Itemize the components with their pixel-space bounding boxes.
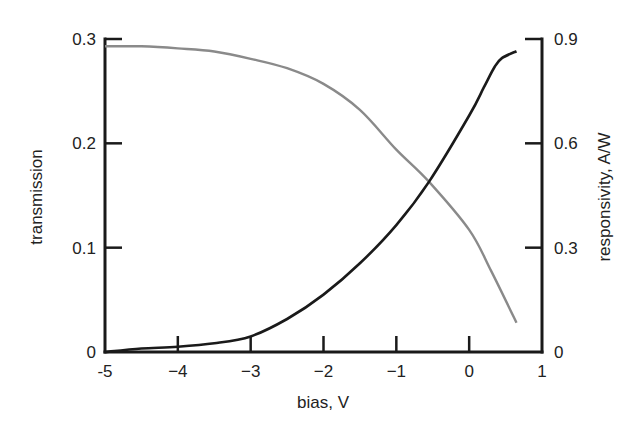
y-axis-title: transmission — [27, 149, 46, 244]
x-tick-label: 0 — [464, 362, 473, 381]
y2-tick-label: 0.3 — [554, 239, 578, 258]
x-tick-label: −4 — [168, 362, 187, 381]
y2-axis-title: responsivity, A/W — [595, 132, 614, 261]
y2-tick-label: 0.6 — [554, 134, 578, 153]
x-tick-label: 1 — [537, 362, 546, 381]
ticks-layer: -5−4−3−2−10100.10.20.300.30.60.9 — [72, 30, 577, 381]
y-tick-label: 0 — [87, 343, 96, 362]
y-tick-label: 0.3 — [72, 30, 96, 49]
y2-tick-label: 0.9 — [554, 30, 578, 49]
chart: -5−4−3−2−10100.10.20.300.30.60.9 bias, V… — [0, 0, 639, 439]
plot-frame — [105, 39, 542, 352]
x-tick-label: -5 — [97, 362, 112, 381]
x-tick-label: −3 — [241, 362, 260, 381]
x-tick-label: −2 — [314, 362, 333, 381]
responsivity-line — [105, 51, 517, 352]
y-tick-label: 0.1 — [72, 239, 96, 258]
y-tick-label: 0.2 — [72, 134, 96, 153]
transmission-line — [105, 46, 517, 323]
y2-tick-label: 0 — [554, 343, 563, 362]
x-axis-title: bias, V — [297, 393, 350, 412]
series-layer — [105, 46, 517, 352]
x-tick-label: −1 — [387, 362, 406, 381]
